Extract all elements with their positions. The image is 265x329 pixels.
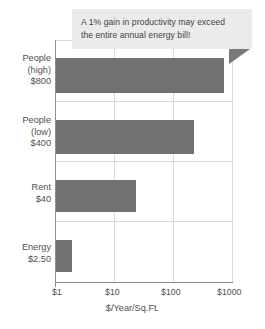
gridline-horizontal-1	[55, 101, 232, 102]
category-value-label: $800	[22, 76, 51, 88]
x-axis-tick-1	[55, 278, 56, 287]
bar-people-low	[55, 120, 194, 154]
category-value-label: $40	[32, 194, 51, 206]
category-label-people-low: People (low) $400	[22, 115, 51, 150]
category-label-main: Rent	[32, 182, 51, 194]
callout-line-1: A 1% gain in productivity may exceed	[81, 16, 244, 29]
callout-line-2: the entire annual energy bill!	[81, 29, 244, 42]
category-label-main: People	[22, 115, 51, 127]
gridline-horizontal-2	[55, 161, 232, 162]
category-value-label: $400	[22, 138, 51, 150]
category-label-energy: Energy $2.50	[22, 242, 51, 265]
bar-rent	[55, 180, 136, 212]
category-label-people-high: People (high) $800	[22, 53, 51, 88]
gridline-horizontal-3	[55, 221, 232, 222]
y-axis-line	[55, 40, 56, 283]
category-value-label: $2.50	[22, 254, 51, 266]
gridline-vertical-1000	[232, 40, 233, 282]
callout-annotation: A 1% gain in productivity may exceed the…	[72, 9, 252, 49]
x-tick-label-10: $10	[105, 287, 120, 298]
category-label-sub: (high)	[22, 65, 51, 77]
x-axis-title: $/Year/Sq.Ft.	[0, 303, 265, 313]
bar-chart: People (high) $800 People (low) $400 Ren…	[0, 0, 265, 329]
category-label-rent: Rent $40	[32, 182, 51, 205]
x-tick-label-1000: $1000	[217, 287, 241, 298]
category-label-sub: (low)	[22, 127, 51, 139]
category-label-main: Energy	[22, 242, 51, 254]
x-axis-line	[55, 282, 233, 283]
x-tick-label-100: $100	[161, 287, 181, 298]
x-tick-label-1: $1	[52, 287, 62, 298]
bar-people-high	[55, 58, 224, 93]
bar-energy	[55, 240, 72, 272]
category-label-main: People	[22, 53, 51, 65]
callout-pointer	[229, 49, 250, 64]
